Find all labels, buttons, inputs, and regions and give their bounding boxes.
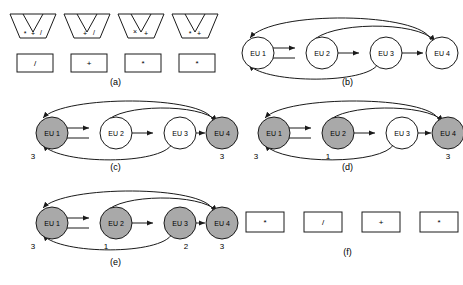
panel-f-label: (f) [232,247,463,257]
panel-a-box-2-value: + [87,59,92,68]
node-eu4-label: EU 4 [434,50,450,57]
node-eu3-label: EU 3 [378,50,394,57]
panel-e: EU 1 EU 2 EU 3 EU 4 3 1 2 3 (e) [0,180,231,285]
panel-d-counts: 3 1 3 [254,152,451,161]
node-eu2-label: EU 2 [108,220,124,227]
funnel-2: + / [64,14,110,38]
funnel-2-op-1: / [93,29,95,36]
funnel-3-op-0: × [133,28,137,35]
node-eu4-label: EU 4 [440,130,456,137]
panel-a-box-4-value: * [195,59,198,68]
node-eu3-label: EU 3 [172,130,188,137]
count-eu4: 3 [446,152,451,161]
funnel-3-op-1: + [144,30,148,37]
panel-e-label: (e) [0,257,231,267]
node-eu2-label: EU 2 [314,50,330,57]
count-eu4: 3 [220,242,225,251]
funnel-2-op-0: + [83,30,87,37]
panel-a-box-4: * [179,54,215,72]
count-eu3: 2 [184,242,189,251]
panel-b: EU 1 EU 2 EU 3 EU 4 (b) [232,0,463,92]
panel-f-box-3: + [362,212,400,232]
edge-eu4-eu1-arc [265,101,439,120]
edge-eu4-eu1-arc [43,191,213,210]
node-eu1-label: EU 1 [266,130,282,137]
edge-eu4-eu1-arc [43,101,213,120]
count-eu2: 1 [326,152,331,161]
funnel-4-op-0: * [189,30,192,37]
panel-a-box-3-value: * [141,59,144,68]
funnel-1-op-1: + [31,30,35,37]
panel-d: EU 1 EU 2 EU 3 EU 4 3 1 3 (d) [232,93,463,179]
node-eu2-label: EU 2 [108,130,124,137]
node-eu1-label: EU 1 [44,130,60,137]
funnel-4-op-1: + [197,30,201,37]
panel-a-label: (a) [0,77,231,87]
node-eu1-label: EU 1 [44,220,60,227]
figure-root: * + / + / × + * [0,0,463,285]
panel-b-edges [249,18,435,79]
funnel-4: * + [172,14,218,38]
panel-f: * / + * (f) [232,180,463,285]
panel-f-box-3-value: + [379,218,384,227]
node-eu3-label: EU 3 [394,130,410,137]
panel-b-label: (b) [232,77,463,87]
funnel-1-op-0: * [24,30,27,37]
panel-c-label: (c) [0,162,231,172]
panel-a: * + / + / × + * [0,0,231,92]
count-eu1: 3 [31,242,36,251]
count-eu1: 3 [31,152,36,161]
node-eu1-label: EU 1 [250,50,266,57]
funnel-1: * + / [10,14,56,38]
count-eu2: 1 [104,242,109,251]
node-eu3-label: EU 3 [172,220,188,227]
count-eu4: 3 [220,152,225,161]
panel-a-box-3: * [125,54,161,72]
panel-a-box-1: / [17,54,53,72]
panel-a-box-2: + [71,54,107,72]
panel-f-box-4: * [420,212,458,232]
panel-f-box-1: * [246,212,284,232]
panel-d-label: (d) [232,162,463,172]
funnel-3: × + [118,14,164,38]
panel-f-box-1-value: * [263,218,266,227]
panel-f-box-4-value: * [437,218,440,227]
node-eu2-label: EU 2 [330,130,346,137]
panel-c: EU 1 EU 2 EU 3 EU 4 3 3 (c) [0,93,231,179]
node-eu4-label: EU 4 [214,130,230,137]
node-eu4-label: EU 4 [214,220,230,227]
panel-f-box-2: / [304,212,342,232]
funnel-1-op-2: / [40,29,42,36]
count-eu1: 3 [254,152,259,161]
